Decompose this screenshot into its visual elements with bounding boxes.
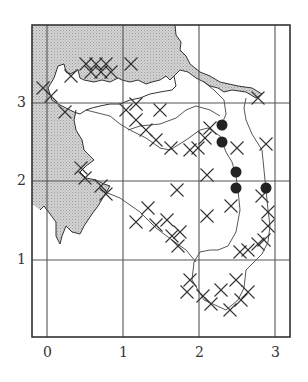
y-tick-label: 1 (17, 251, 26, 267)
y-tick-label: 3 (17, 94, 26, 110)
distribution-map (0, 0, 308, 382)
x-tick-label: 3 (271, 344, 280, 360)
dot-marker (261, 183, 272, 194)
dot-marker (217, 120, 228, 131)
river (100, 190, 196, 262)
x-tick-label: 0 (43, 344, 52, 360)
x-tick-label: 2 (195, 344, 204, 360)
dot-markers (217, 120, 272, 194)
river (86, 98, 270, 310)
x-tick-label: 1 (119, 344, 128, 360)
y-tick-label: 2 (17, 172, 26, 188)
dot-marker (231, 183, 242, 194)
dot-marker (217, 137, 228, 148)
sea-area (32, 25, 262, 244)
dot-marker (231, 167, 242, 178)
